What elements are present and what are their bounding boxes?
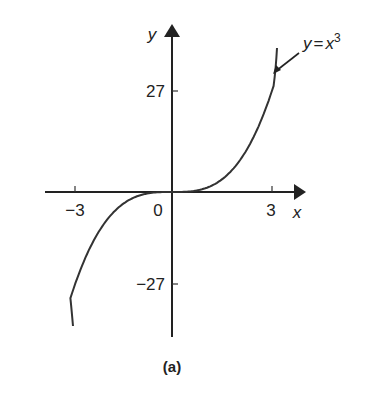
annotation-pointer	[276, 53, 299, 71]
x-axis-arrow-icon	[294, 184, 306, 200]
x-tick-label-3: 3	[266, 201, 275, 220]
y-axis-label: y	[147, 25, 158, 44]
origin-label: 0	[153, 201, 162, 220]
annotation-arrow-icon	[273, 65, 281, 74]
figure-caption: (a)	[163, 358, 181, 375]
curve-label: y=x3	[302, 31, 341, 53]
y-tick-label-27: 27	[146, 82, 165, 101]
y-axis-arrow-icon	[164, 24, 180, 37]
x-tick-label-neg3: −3	[65, 201, 84, 220]
cubic-graph: −3 0 3 x 27 −27 y y=x3 (a)	[0, 0, 387, 402]
y-axis: 27 −27 y	[136, 24, 180, 337]
y-tick-label-neg27: −27	[136, 275, 165, 294]
x-axis-label: x	[292, 203, 302, 222]
x-axis: −3 0 3 x	[45, 184, 306, 222]
curve-annotation: y=x3	[273, 31, 341, 74]
